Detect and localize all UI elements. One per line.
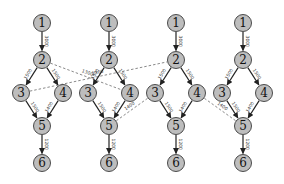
node-2: 2	[100, 51, 118, 69]
node-4: 4	[188, 84, 206, 102]
edge-label-2-4: 1500	[185, 68, 195, 80]
node-5: 5	[167, 117, 185, 135]
edge-label-2-4: 1500	[252, 68, 262, 80]
edge-label-4-5: 1400	[44, 101, 54, 113]
edge-label-1-2: 3000	[178, 36, 183, 48]
edge-label-2-3: 1500	[23, 68, 33, 80]
edge-label-5-6: 1200	[111, 139, 116, 151]
cross-edge-label: 1400	[123, 101, 135, 112]
node-6: 6	[234, 154, 252, 172]
node-5: 5	[100, 117, 118, 135]
node-1: 1	[100, 14, 118, 32]
edge-label-3-5: 1500	[30, 101, 40, 113]
edge-label-4-5: 1400	[178, 101, 188, 113]
node-6: 6	[33, 154, 51, 172]
node-1: 1	[33, 14, 51, 32]
edge-label-3-5: 1500	[97, 101, 107, 113]
edge-label-5-6: 1200	[44, 139, 49, 151]
node-2: 2	[33, 51, 51, 69]
node-5: 5	[234, 117, 252, 135]
edge-label-5-6: 1200	[245, 139, 250, 151]
edge-label-3-5: 1500	[164, 101, 174, 113]
node-1: 1	[234, 14, 252, 32]
edge-label-1-2: 3000	[245, 36, 250, 48]
node-4: 4	[255, 84, 273, 102]
node-5: 5	[33, 117, 51, 135]
node-3: 3	[79, 84, 97, 102]
edge-label-5-6: 1200	[178, 139, 183, 151]
node-6: 6	[100, 154, 118, 172]
node-3: 3	[146, 84, 164, 102]
node-1: 1	[167, 14, 185, 32]
cross-edge-label: 1400	[216, 101, 228, 112]
edge-label-4-5: 1400	[245, 101, 255, 113]
node-2: 2	[234, 51, 252, 69]
edge-label-1-2: 3000	[44, 36, 49, 48]
node-2: 2	[167, 51, 185, 69]
node-3: 3	[213, 84, 231, 102]
edge-label-4-5: 1400	[111, 101, 121, 113]
node-3: 3	[12, 84, 30, 102]
edge-label-3-5: 1500	[231, 101, 241, 113]
edge-label-2-4: 1500	[118, 68, 128, 80]
graph-diagram: 1300130014001400300015001500150014001200…	[0, 0, 284, 184]
edge-label-1-2: 3000	[111, 36, 116, 48]
edge-label-2-3: 1500	[157, 68, 167, 80]
edge-label-2-4: 1500	[51, 68, 61, 80]
edge-label-2-3: 1500	[224, 68, 234, 80]
node-4: 4	[121, 84, 139, 102]
node-6: 6	[167, 154, 185, 172]
node-4: 4	[54, 84, 72, 102]
